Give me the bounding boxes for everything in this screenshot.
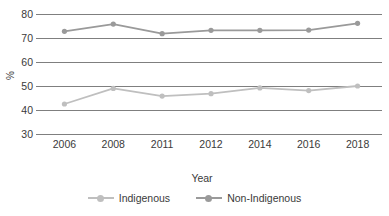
x-tick-label: 2011 [151, 138, 174, 150]
chart-legend: IndigenousNon-Indigenous [0, 192, 389, 204]
data-point [306, 88, 311, 93]
plot-area: 304050607080 200620082011201220142016201… [18, 8, 386, 158]
data-point [111, 21, 116, 26]
y-axis-ticks [36, 14, 40, 134]
x-tick-label: 2016 [297, 138, 321, 150]
data-point [355, 83, 360, 88]
y-tick-label: 40 [21, 104, 33, 116]
data-point [62, 101, 67, 106]
legend-item[interactable]: Indigenous [88, 192, 170, 204]
data-point [257, 28, 262, 33]
y-tick-label: 80 [21, 8, 33, 20]
data-point [160, 93, 165, 98]
series-markers [62, 21, 360, 107]
x-tick-label: 2014 [248, 138, 272, 150]
x-axis-title: Year [18, 172, 386, 184]
y-tick-label: 70 [21, 32, 33, 44]
data-point [208, 91, 213, 96]
legend-item[interactable]: Non-Indigenous [196, 192, 301, 204]
x-tick-label: 2018 [346, 138, 370, 150]
x-axis-tick-labels: 2006200820112012201420162018 [53, 138, 370, 150]
y-tick-label: 30 [21, 128, 33, 140]
data-point [62, 29, 67, 34]
y-axis-tick-labels: 304050607080 [21, 8, 33, 140]
legend-dot [205, 195, 212, 202]
legend-key-icon [196, 193, 222, 203]
data-point [208, 28, 213, 33]
legend-key-icon [88, 193, 114, 203]
x-tick-label: 2008 [102, 138, 126, 150]
x-tick-label: 2006 [53, 138, 77, 150]
y-tick-label: 60 [21, 56, 33, 68]
x-tick-label: 2012 [199, 138, 223, 150]
data-point [111, 86, 116, 91]
data-point [257, 85, 262, 90]
legend-label: Indigenous [119, 192, 170, 204]
data-point [355, 21, 360, 26]
y-tick-label: 50 [21, 80, 33, 92]
line-chart: % 304050607080 2006200820112012201420162… [0, 0, 389, 216]
y-axis-label: % [5, 71, 16, 80]
legend-label: Non-Indigenous [227, 192, 301, 204]
y-axis-label-wrap: % [2, 0, 18, 150]
data-point [160, 31, 165, 36]
chart-canvas: 304050607080 200620082011201220142016201… [18, 8, 386, 158]
legend-dot [97, 195, 104, 202]
data-point [306, 27, 311, 32]
